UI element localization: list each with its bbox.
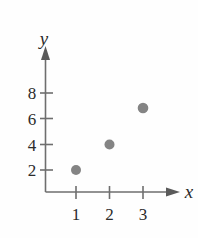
- x-tick-label-3: 3: [139, 205, 148, 224]
- x-axis-arrow-icon: [166, 188, 180, 197]
- data-point: [71, 165, 81, 175]
- y-axis-label: y: [38, 28, 49, 49]
- y-tick-label-4: 4: [28, 136, 37, 155]
- y-tick-label-6: 6: [28, 110, 37, 129]
- x-tick-label-1: 1: [72, 205, 81, 224]
- plot-canvas: 8 6 4 2 1 2 3 y x: [0, 0, 198, 238]
- data-point: [105, 140, 115, 150]
- scatter-plot-figure: 8 6 4 2 1 2 3 y x: [0, 0, 198, 238]
- data-point: [138, 103, 149, 114]
- x-tick-label-2: 2: [105, 205, 114, 224]
- y-tick-label-8: 8: [28, 84, 37, 103]
- x-axis-label: x: [184, 181, 194, 202]
- y-tick-label-2: 2: [28, 161, 37, 180]
